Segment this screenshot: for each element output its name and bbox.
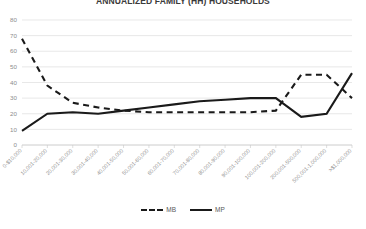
x-axis-tick-label: 0-$10,000	[1, 147, 22, 168]
chart-plot-area: 80706050403020100 0-$10,00010,001-20,000…	[0, 0, 366, 229]
y-axis-tick-label: 20	[10, 110, 17, 117]
data-series-group	[22, 39, 352, 131]
legend-label: MP	[215, 206, 225, 213]
data-line-mp	[22, 73, 352, 131]
y-axis-tick-label: 80	[10, 16, 17, 23]
data-line-mb	[22, 39, 352, 112]
chart-container: ANNUALIZED FAMILY (HH) HOUSEHOLDS 807060…	[0, 0, 366, 229]
x-axis-tick-label: >$1,000,000	[327, 147, 353, 173]
y-axis-tick-label: 10	[10, 126, 17, 133]
legend-swatch-mp	[190, 209, 212, 211]
legend-item-mb[interactable]: MB	[141, 206, 176, 213]
y-axis-tick-label: 40	[10, 79, 17, 86]
x-axis-labels-group: 0-$10,00010,001-20,00020,001-30,00030,00…	[1, 145, 352, 184]
gridlines-group	[22, 20, 352, 145]
legend-swatch-mb	[141, 209, 163, 211]
legend-item-mp[interactable]: MP	[190, 206, 225, 213]
chart-legend: MBMP	[0, 206, 366, 213]
y-axis-tick-label: 30	[10, 94, 17, 101]
y-axis-tick-label: 70	[10, 32, 17, 39]
legend-label: MB	[166, 206, 176, 213]
y-axis-labels-group: 80706050403020100	[10, 16, 17, 148]
y-axis-tick-label: 0	[14, 141, 18, 148]
y-axis-tick-label: 60	[10, 47, 17, 54]
y-axis-tick-label: 50	[10, 63, 17, 70]
